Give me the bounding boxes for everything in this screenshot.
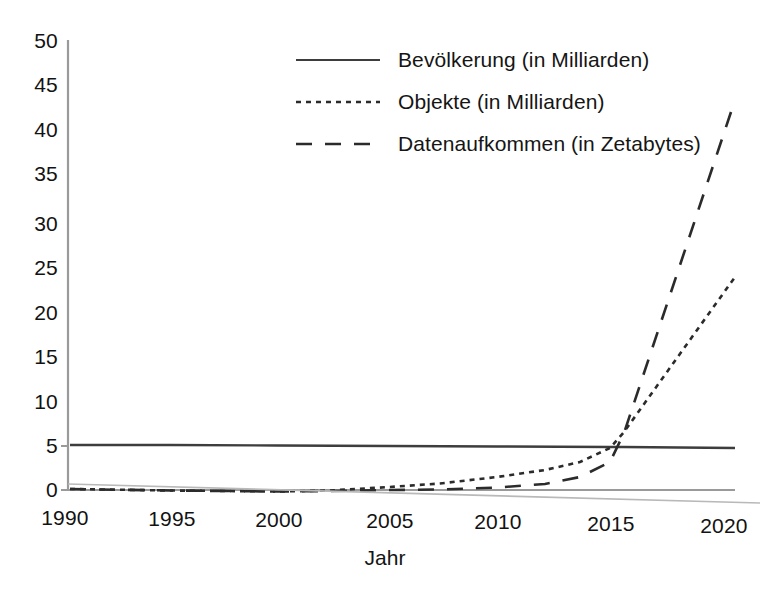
y-tick-label-35: 35 — [20, 162, 58, 186]
y-tick-label-0: 0 — [20, 478, 58, 502]
legend-swatch-dotted-line-icon — [296, 95, 380, 109]
series-line-datenaufkommen — [70, 100, 735, 492]
y-tick-label-40: 40 — [20, 118, 58, 142]
legend-item-datenaufkommen: Datenaufkommen (in Zetabytes) — [296, 132, 701, 156]
legend-label-bevoelkerung: Bevölkerung (in Milliarden) — [398, 48, 649, 72]
legend-item-objekte: Objekte (in Milliarden) — [296, 90, 701, 114]
legend-label-objekte: Objekte (in Milliarden) — [398, 90, 605, 114]
y-tick-label-20: 20 — [20, 301, 58, 325]
x-tick-label-1995: 1995 — [148, 507, 196, 531]
y-tick-label-10: 10 — [20, 390, 58, 414]
x-tick-label-2015: 2015 — [587, 512, 635, 536]
legend-swatch-solid-line-icon — [296, 53, 380, 67]
y-tick-label-45: 45 — [20, 73, 58, 97]
x-tick-label-2020: 2020 — [700, 514, 748, 538]
scan-fold-artifact — [68, 484, 760, 503]
y-tick-label-15: 15 — [20, 345, 58, 369]
x-tick-label-2000: 2000 — [255, 508, 303, 532]
legend-item-bevoelkerung: Bevölkerung (in Milliarden) — [296, 48, 701, 72]
chart-legend: Bevölkerung (in Milliarden) Objekte (in … — [296, 48, 701, 156]
y-tick-label-25: 25 — [20, 256, 58, 280]
x-tick-label-2005: 2005 — [366, 509, 414, 533]
x-tick-label-2010: 2010 — [474, 510, 522, 534]
legend-swatch-dashed-line-icon — [296, 137, 380, 151]
y-tick-label-50: 50 — [20, 29, 58, 53]
series-line-objekte — [70, 277, 735, 492]
chart-container: 50 45 40 35 30 25 20 15 10 5 0 1990 1995… — [0, 0, 770, 609]
legend-label-datenaufkommen: Datenaufkommen (in Zetabytes) — [398, 132, 701, 156]
series-line-bevoelkerung — [70, 445, 735, 448]
y-tick-label-30: 30 — [20, 212, 58, 236]
x-axis-title: Jahr — [0, 546, 770, 570]
x-tick-label-1990: 1990 — [41, 506, 89, 530]
y-tick-label-5: 5 — [20, 434, 58, 458]
